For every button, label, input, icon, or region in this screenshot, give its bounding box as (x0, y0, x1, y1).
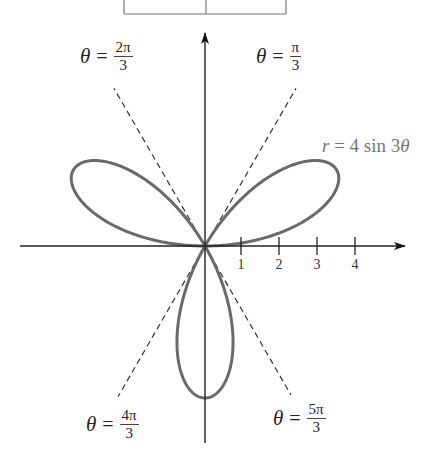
plot-canvas (0, 0, 424, 459)
fraction-denominator: 3 (119, 57, 127, 73)
theta-symbol: θ (273, 406, 283, 431)
theta-symbol: θ (86, 412, 96, 437)
equals-sign: = (96, 45, 107, 68)
fraction-numerator: 4π (120, 408, 139, 425)
dashed-line (114, 88, 205, 246)
x-tick-label: 3 (314, 257, 321, 273)
equation-theta: θ (400, 135, 409, 156)
fraction-numerator: 5π (307, 402, 326, 419)
curve-equation-label: r = 4 sin 3θ (322, 135, 410, 157)
dashed-line (205, 88, 296, 246)
equals-sign: = (289, 407, 300, 430)
fraction-denominator: 3 (312, 419, 320, 435)
fraction-denominator: 3 (125, 425, 133, 441)
fraction: 5π 3 (307, 402, 326, 435)
equals-sign: = (272, 45, 283, 68)
fraction-numerator: 2π (114, 40, 133, 57)
x-tick-label: 2 (276, 257, 283, 273)
label-theta-pi-3: θ = π 3 (256, 40, 301, 73)
equation-body: = 4 sin 3 (329, 135, 400, 156)
label-theta-4pi-3: θ = 4π 3 (86, 408, 139, 441)
label-theta-5pi-3: θ = 5π 3 (273, 402, 326, 435)
x-tick-label: 1 (238, 257, 245, 273)
fraction-denominator: 3 (292, 57, 300, 73)
fraction: 4π 3 (120, 408, 139, 441)
fraction-numerator: π (290, 40, 302, 57)
label-theta-2pi-3: θ = 2π 3 (80, 40, 133, 73)
fraction: 2π 3 (114, 40, 133, 73)
equals-sign: = (102, 413, 113, 436)
theta-symbol: θ (256, 44, 266, 69)
theta-symbol: θ (80, 44, 90, 69)
x-tick-label: 4 (352, 257, 359, 273)
fraction: π 3 (290, 40, 302, 73)
table-fragment (124, 0, 286, 14)
polar-rose-diagram: 1234 θ = 2π 3 θ = π 3 θ = 4π 3 θ = 5π 3 … (0, 0, 424, 459)
